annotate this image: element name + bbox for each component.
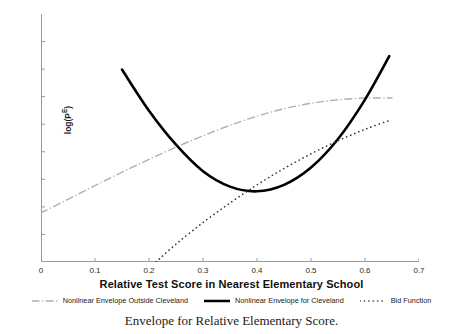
x-tick-label: 0.2: [137, 266, 161, 275]
legend-item[interactable]: Nonlinear Envelope for Cleveland: [204, 296, 344, 305]
x-tick-label: 0.3: [191, 266, 215, 275]
legend-swatch-icon: [204, 298, 230, 304]
x-axis-title: Relative Test Score in Nearest Elementar…: [0, 278, 463, 290]
x-tick-label: 0.5: [299, 266, 323, 275]
x-tick-label: 0.4: [245, 266, 269, 275]
x-tick-label: 0.6: [353, 266, 377, 275]
series-line: [122, 56, 389, 191]
chart-legend: Nonlinear Envelope Outside ClevelandNonl…: [0, 296, 463, 305]
axes: [41, 14, 419, 262]
x-tick-label: 0.7: [407, 266, 431, 275]
y-axis-label-superscript: E: [61, 109, 68, 113]
chart-svg: [41, 14, 419, 262]
legend-swatch-icon: [360, 298, 386, 304]
legend-item[interactable]: Nonlinear Envelope Outside Cleveland: [32, 296, 188, 305]
plot-area: log(PE) 00.10.20.30.40.50.60.7: [41, 14, 419, 262]
data-series: [41, 56, 392, 262]
legend-label: Nonlinear Envelope Outside Cleveland: [63, 296, 188, 305]
figure-caption: Envelope for Relative Elementary Score.: [0, 313, 463, 329]
x-tick-label: 0: [29, 266, 53, 275]
chart-figure: log(PE) 00.10.20.30.40.50.60.7 Relative …: [0, 0, 463, 334]
legend-label: Bid Function: [391, 296, 432, 305]
legend-swatch-icon: [32, 298, 58, 304]
series-line: [41, 98, 392, 213]
legend-label: Nonlinear Envelope for Cleveland: [235, 296, 344, 305]
y-axis-label: log(PE): [63, 80, 73, 160]
legend-item[interactable]: Bid Function: [360, 296, 432, 305]
x-tick-label: 0.1: [83, 266, 107, 275]
y-axis-label-close: ): [63, 106, 73, 109]
y-axis-label-text: log(P: [63, 113, 73, 134]
